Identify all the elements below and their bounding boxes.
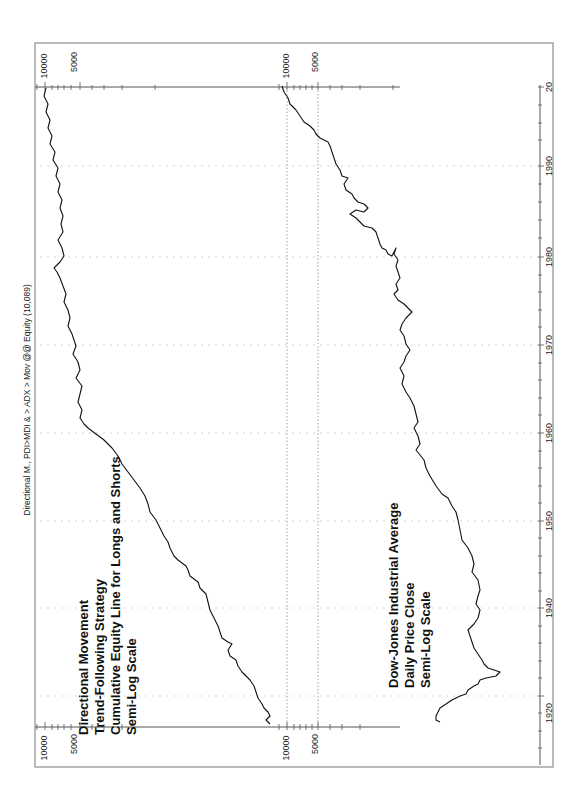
equity-note-line-2: Trend-Following Strategy	[92, 578, 107, 735]
djia-tick-10000-bottom: 10000	[281, 735, 291, 760]
djia-annotation: Dow-Jones Industrial Average Daily Price…	[386, 503, 433, 688]
equity-tick-5000-bottom: 5000	[69, 734, 79, 754]
equity-note-line-1: Directional Movement	[76, 599, 91, 735]
year-label-1980: 1980	[544, 247, 554, 267]
chart: Directional M., PDI>MDI & > ADX > Mov @@…	[0, 0, 586, 795]
year-label-1960: 1960	[544, 423, 554, 443]
year-ticks	[538, 87, 544, 748]
chart-title: Directional M., PDI>MDI & > ADX > Mov @@…	[22, 284, 32, 516]
year-label-1970: 1970	[544, 335, 554, 355]
djia-note-line-2: Daily Price Close	[402, 583, 417, 689]
year-label-2000: 20	[544, 82, 554, 92]
equity-tick-10000-top: 10000	[39, 53, 49, 78]
djia-tick-10000-top: 10000	[281, 53, 291, 78]
djia-note-line-3: Semi-Log Scale	[418, 591, 433, 688]
year-label-1940: 1940	[544, 598, 554, 618]
year-label-1920: 1920	[544, 703, 554, 723]
equity-tick-5000-top: 5000	[69, 52, 79, 72]
equity-tick-10000-bottom: 10000	[39, 735, 49, 760]
equity-note-line-4: Semi-Log Scale	[124, 638, 139, 735]
djia-tick-5000-top: 5000	[310, 52, 320, 72]
equity-annotation: Directional Movement Trend-Following Str…	[76, 456, 139, 735]
year-label-1950: 1950	[544, 511, 554, 531]
equity-note-line-3: Cumulative Equity Line for Longs and Sho…	[108, 456, 123, 735]
djia-tick-5000-bottom: 5000	[310, 734, 320, 754]
year-label-1990: 1990	[544, 156, 554, 176]
djia-note-line-1: Dow-Jones Industrial Average	[386, 503, 401, 688]
